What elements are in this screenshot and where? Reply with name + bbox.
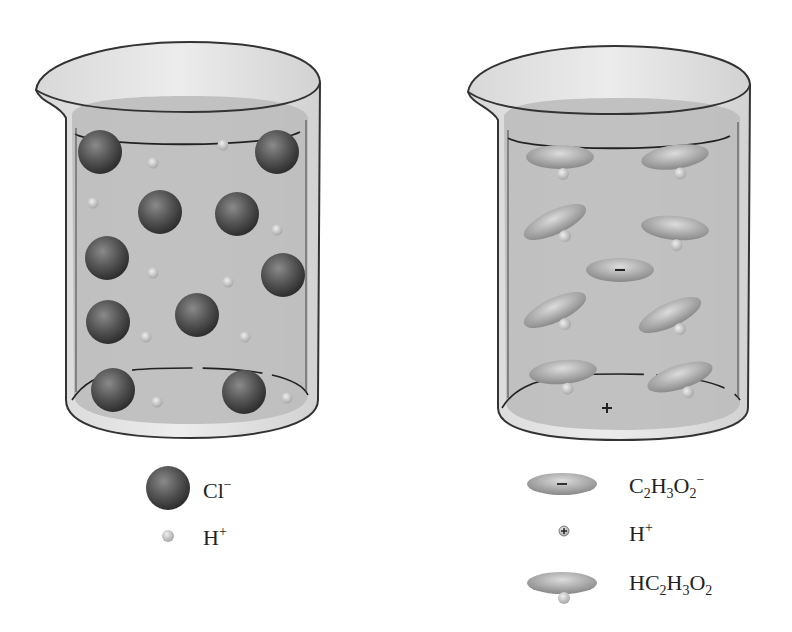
hydrogen-ion-sphere: [152, 397, 163, 408]
legend-acetic-acid-symbol: [527, 572, 597, 604]
legend-chloride-text: Cl: [203, 478, 224, 503]
chloride-ion-sphere: [85, 236, 129, 280]
hydrogen-ion-sphere: [240, 332, 251, 343]
legend-right-symbols: [527, 473, 597, 604]
chloride-ion-sphere: [255, 130, 299, 174]
acetate-ion: [586, 258, 654, 282]
chloride-ion-sphere: [138, 190, 182, 234]
hydrogen-ion-sphere: [282, 393, 293, 404]
chloride-ion-sphere: [78, 130, 122, 174]
hydrogen-ion-sphere: [148, 158, 159, 169]
legend-label-chloride: Cl−: [203, 478, 232, 502]
chloride-ion-sphere: [86, 300, 130, 344]
diagram-canvas: [0, 0, 792, 632]
legend-hydrogen-charge: +: [219, 524, 227, 539]
legend-label-hydrogen: H+: [203, 525, 227, 549]
hydrogen-ion-sphere: [218, 140, 229, 151]
legend-chloride-charge: −: [224, 477, 232, 492]
legend-hydrogen-text: H: [203, 525, 219, 550]
hydrogen-ion-sphere: [223, 277, 234, 288]
legend-hydrogen-ion-symbol: [559, 526, 569, 536]
legend-left-symbols: [146, 466, 190, 542]
legend-chloride-sphere: [146, 466, 190, 510]
chloride-ion-sphere: [91, 368, 135, 412]
acid-dissociation-diagram: Cl− H+ C2H3O2− H+ HC2H3O2: [0, 0, 792, 632]
legend-hydrogen-sphere: [162, 530, 174, 542]
right-beaker: [468, 46, 750, 440]
chloride-ion-sphere: [215, 192, 259, 236]
chloride-ion-sphere: [222, 370, 266, 414]
left-beaker: [36, 42, 320, 438]
hydrogen-ion-sphere: [88, 198, 99, 209]
legend-label-acetic-acid: HC2H3O2: [629, 572, 712, 598]
hydrogen-ion-sphere: [272, 225, 283, 236]
chloride-ion-sphere: [261, 253, 305, 297]
legend-acetate-symbol: [527, 473, 597, 495]
chloride-ion-sphere: [175, 293, 219, 337]
legend-label-acetate-ion: C2H3O2−: [629, 473, 704, 501]
hydrogen-ion-sphere: [141, 332, 152, 343]
legend-label-hydrogen-ion: H+: [629, 521, 653, 545]
hydrogen-ion-sphere: [148, 268, 159, 279]
